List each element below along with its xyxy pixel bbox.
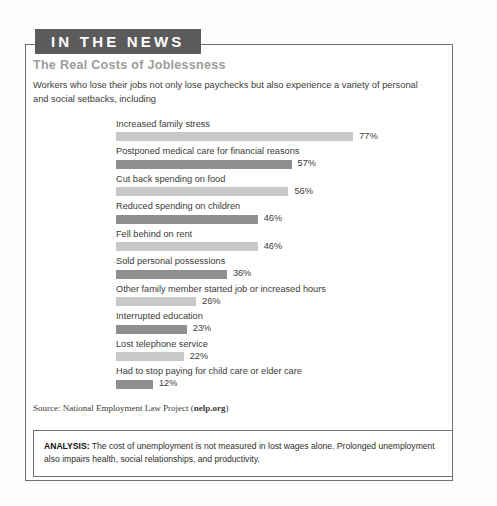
page-background: IN THE NEWS The Real Costs of Joblessnes… <box>0 0 497 506</box>
bar-value-label: 57% <box>298 159 316 168</box>
bar-fill <box>116 270 227 279</box>
bar-row: Sold personal possessions36% <box>116 256 443 279</box>
bar-line: 22% <box>116 352 443 361</box>
bar-value-label: 26% <box>202 297 220 306</box>
bar-line: 23% <box>116 325 443 334</box>
bar-row: Fell behind on rent46% <box>116 229 443 252</box>
banner-label: IN THE NEWS <box>51 34 185 49</box>
bar-line: 36% <box>116 270 443 279</box>
bar-fill <box>116 132 353 141</box>
bar-value-label: 12% <box>159 379 177 388</box>
bar-category-label: Interrupted education <box>116 311 443 323</box>
bar-value-label: 22% <box>190 352 208 361</box>
analysis-box: ANALYSIS: The cost of unemployment is no… <box>33 430 453 477</box>
bar-category-label: Reduced spending on children <box>116 201 443 213</box>
joblessness-bar-chart: Increased family stress77%Postponed medi… <box>33 119 443 389</box>
bar-line: 56% <box>116 187 443 196</box>
bar-line: 77% <box>116 132 443 141</box>
bar-category-label: Increased family stress <box>116 119 443 131</box>
bar-line: 26% <box>116 297 443 306</box>
bar-category-label: Had to stop paying for child care or eld… <box>116 366 443 378</box>
bar-category-label: Sold personal possessions <box>116 256 443 268</box>
bar-line: 57% <box>116 160 443 169</box>
bar-value-label: 36% <box>233 269 251 278</box>
analysis-text: ANALYSIS: The cost of unemployment is no… <box>44 440 442 466</box>
bar-value-label: 23% <box>193 324 211 333</box>
page-title: The Real Costs of Joblessness <box>33 58 443 72</box>
analysis-body: The cost of unemployment is not measured… <box>44 441 435 464</box>
bar-fill <box>116 215 258 224</box>
source-suffix: ) <box>225 403 228 413</box>
source-prefix: Source: National Employment Law Project … <box>33 403 194 413</box>
bar-value-label: 77% <box>359 132 377 141</box>
intro-paragraph: Workers who lose their jobs not only los… <box>33 79 429 107</box>
bar-value-label: 46% <box>264 214 282 223</box>
feature-content: The Real Costs of Joblessness Workers wh… <box>33 58 443 413</box>
bar-category-label: Lost telephone service <box>116 339 443 351</box>
bar-fill <box>116 325 187 334</box>
bar-row: Had to stop paying for child care or eld… <box>116 366 443 389</box>
bar-category-label: Cut back spending on food <box>116 174 443 186</box>
bar-fill <box>116 160 292 169</box>
bar-row: Interrupted education23% <box>116 311 443 334</box>
bar-row: Postponed medical care for financial rea… <box>116 146 443 169</box>
bar-category-label: Other family member started job or incre… <box>116 284 443 296</box>
bar-line: 46% <box>116 215 443 224</box>
bar-fill <box>116 352 184 361</box>
bar-row: Cut back spending on food56% <box>116 174 443 197</box>
bar-fill <box>116 187 288 196</box>
bar-fill <box>116 380 153 389</box>
bar-line: 46% <box>116 242 443 251</box>
bar-row: Other family member started job or incre… <box>116 284 443 307</box>
source-link: nelp.org <box>194 403 226 413</box>
bar-fill <box>116 242 258 251</box>
in-the-news-banner: IN THE NEWS <box>35 29 201 54</box>
bar-row: Lost telephone service22% <box>116 339 443 362</box>
bar-category-label: Fell behind on rent <box>116 229 443 241</box>
bar-value-label: 46% <box>264 242 282 251</box>
bar-value-label: 56% <box>294 187 312 196</box>
bar-category-label: Postponed medical care for financial rea… <box>116 146 443 158</box>
bar-row: Increased family stress77% <box>116 119 443 142</box>
bar-line: 12% <box>116 380 443 389</box>
bar-row: Reduced spending on children46% <box>116 201 443 224</box>
bar-fill <box>116 297 196 306</box>
source-citation: Source: National Employment Law Project … <box>33 403 443 413</box>
analysis-lead: ANALYSIS: <box>44 441 90 451</box>
